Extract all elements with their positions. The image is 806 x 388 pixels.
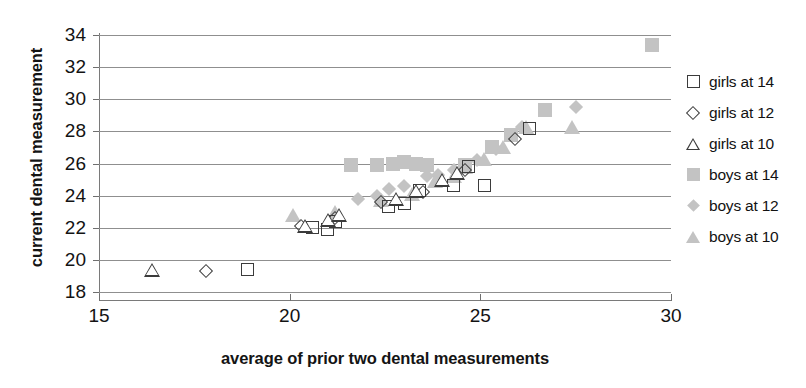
data-point [382, 182, 396, 196]
triangle-inner [436, 175, 448, 185]
triangle-inner [322, 215, 334, 225]
data-point [523, 122, 536, 135]
x-tick-label: 25 [455, 306, 505, 325]
data-point [427, 174, 443, 188]
data-point [446, 169, 462, 183]
data-point [398, 197, 411, 210]
y-tick-label: 22 [42, 218, 86, 237]
y-tick-label: 20 [42, 250, 86, 269]
data-point [485, 140, 499, 154]
data-point [285, 208, 301, 222]
open-triangle-icon [686, 138, 700, 150]
data-point [431, 168, 445, 182]
gridline [99, 260, 671, 261]
legend-item: boys at 10 [683, 221, 805, 252]
data-point [504, 128, 518, 142]
data-point [397, 179, 411, 193]
data-point [374, 195, 388, 209]
data-point [388, 192, 404, 206]
data-point [321, 223, 334, 236]
legend-label: boys at 12 [709, 197, 779, 215]
gridline [99, 67, 671, 68]
legend-item: girls at 12 [683, 97, 805, 128]
data-point [297, 219, 313, 233]
data-point [344, 158, 358, 172]
data-point [434, 173, 450, 187]
gridline [99, 164, 671, 165]
data-point [645, 38, 659, 52]
data-point [329, 215, 342, 228]
legend-swatch [683, 227, 703, 247]
scatter-chart: current dental measurement average of pr… [0, 0, 806, 388]
data-point [447, 163, 461, 177]
data-point [351, 192, 365, 206]
triangle-inner [410, 186, 422, 196]
legend-label: girls at 12 [709, 104, 774, 122]
data-point [370, 158, 384, 172]
legend-item: girls at 10 [683, 128, 805, 159]
triangle-inner [146, 265, 158, 275]
gridline [99, 292, 671, 293]
legend-label: girls at 14 [709, 73, 774, 91]
legend-label: boys at 14 [709, 166, 779, 184]
data-point [458, 163, 472, 177]
data-point [458, 158, 472, 172]
y-tick-label: 18 [42, 282, 86, 301]
x-tick-label: 20 [265, 306, 315, 325]
data-point [320, 213, 336, 227]
data-point [144, 263, 160, 277]
data-point [331, 208, 347, 222]
gridline [99, 99, 671, 100]
filled-diamond-icon [687, 199, 700, 212]
data-point [478, 179, 491, 192]
x-tick-mark [671, 294, 672, 301]
data-point [469, 153, 483, 167]
triangle-inner [333, 210, 345, 220]
data-point [447, 179, 460, 192]
data-point [538, 103, 552, 117]
data-point [382, 200, 395, 213]
legend-swatch [683, 72, 703, 92]
data-point [294, 219, 308, 233]
y-tick-label: 28 [42, 121, 86, 140]
open-square-icon [687, 75, 700, 88]
data-point [327, 205, 343, 219]
open-diamond-icon [686, 105, 700, 119]
y-tick-label: 34 [42, 25, 86, 44]
data-point [569, 100, 583, 114]
data-point [495, 140, 511, 154]
y-tick-label: 32 [42, 57, 86, 76]
x-axis-title: average of prior two dental measurements [99, 349, 671, 368]
gridline [99, 35, 671, 36]
gridline [99, 228, 671, 229]
legend-swatch [683, 165, 703, 185]
data-point [489, 142, 503, 156]
plot-area [99, 35, 671, 292]
legend-item: girls at 14 [683, 66, 805, 97]
data-point [404, 187, 420, 201]
x-tick-label: 15 [74, 306, 124, 325]
data-point [241, 263, 254, 276]
x-tick-mark [290, 294, 291, 301]
data-point [420, 169, 434, 183]
triangle-inner [451, 168, 463, 178]
data-point [420, 158, 434, 172]
data-point [449, 166, 465, 180]
data-point [462, 160, 475, 173]
y-tick-label: 26 [42, 154, 86, 173]
data-point [199, 264, 213, 278]
data-point [397, 155, 411, 169]
filled-triangle-icon [686, 231, 700, 243]
x-tick-label: 30 [646, 306, 696, 325]
legend-swatch [683, 196, 703, 216]
gridline [99, 196, 671, 197]
legend-label: boys at 10 [709, 228, 779, 246]
x-tick-mark [480, 294, 481, 301]
legend-item: boys at 12 [683, 190, 805, 221]
legend-swatch [683, 134, 703, 154]
y-tick-label: 30 [42, 89, 86, 108]
data-point [508, 132, 522, 146]
y-tick-label: 24 [42, 186, 86, 205]
triangle-inner [299, 221, 311, 231]
x-axis-line [99, 300, 672, 301]
